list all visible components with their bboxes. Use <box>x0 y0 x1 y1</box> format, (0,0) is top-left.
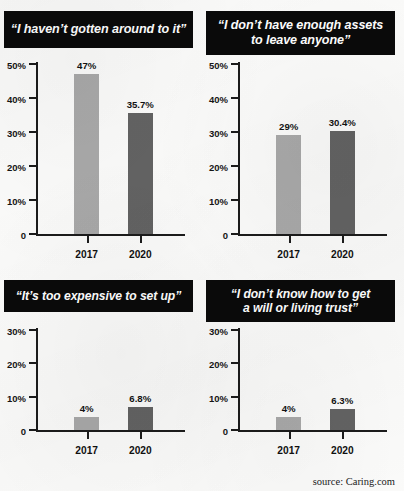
plot-area: 010%20%30%4%20176.8%2020 <box>36 332 185 432</box>
y-axis-tick-label: 40% <box>209 94 228 105</box>
y-axis-tick <box>29 329 36 331</box>
y-axis-tick-label: 50% <box>7 60 26 71</box>
y-axis-tick <box>29 396 36 398</box>
panel-title-line: to leave anyone” <box>218 33 383 48</box>
x-axis-tick <box>140 432 142 439</box>
y-axis-tick <box>231 63 238 65</box>
bar-2020 <box>128 407 153 430</box>
bar-chart: 010%20%30%4%20176.8%2020 <box>0 324 202 464</box>
y-axis-tick-label: 20% <box>209 359 228 370</box>
x-axis-tick <box>289 432 291 439</box>
panel-too-expensive: “It’s too expensive to set up” 010%20%30… <box>0 272 202 466</box>
panel-title-line: “It’s too expensive to set up” <box>16 289 181 303</box>
x-axis-label-2017: 2017 <box>277 249 300 260</box>
bar-chart: 010%20%30%40%50%47%201735.7%2020 <box>0 58 202 268</box>
panel-havent-gotten-around: “I haven’t gotten around to it” 010%20%3… <box>0 0 202 272</box>
bar-value-label: 6.3% <box>331 395 353 406</box>
y-axis <box>36 328 38 432</box>
bar-2017 <box>74 417 99 430</box>
y-axis-tick <box>231 362 238 364</box>
panel-title-line: a will or living trust” <box>231 301 370 315</box>
y-axis <box>36 62 38 236</box>
y-axis-tick <box>29 233 36 235</box>
x-axis-label-2017: 2017 <box>75 445 98 456</box>
y-axis-tick-label: 30% <box>209 128 228 139</box>
y-axis-tick <box>231 165 238 167</box>
panel-title-line: “I haven’t gotten around to it” <box>11 22 187 37</box>
x-axis <box>36 430 185 432</box>
bar-value-label: 30.4% <box>329 117 356 128</box>
panel-title-banner: “I don’t have enough assets to leave any… <box>206 11 395 55</box>
x-axis-label-2020: 2020 <box>331 249 354 260</box>
y-axis-tick-label: 20% <box>209 162 228 173</box>
y-axis-tick-label: 30% <box>7 326 26 337</box>
y-axis-tick <box>29 199 36 201</box>
x-axis <box>238 430 387 432</box>
y-axis-tick-label: 10% <box>7 196 26 207</box>
y-axis <box>238 328 240 432</box>
y-axis-tick-label: 0 <box>21 230 26 241</box>
bar-2017 <box>276 135 301 234</box>
y-axis-tick <box>231 396 238 398</box>
panel-title-line: “I don’t know how to get <box>231 287 370 301</box>
panel-dont-know-how: “I don’t know how to get a will or livin… <box>202 272 404 466</box>
bar-2017 <box>74 74 99 234</box>
bar-value-label: 4% <box>80 403 94 414</box>
y-axis-tick-label: 30% <box>209 326 228 337</box>
x-axis-tick <box>342 236 344 243</box>
bar-2020 <box>330 131 355 234</box>
y-axis-tick-label: 10% <box>7 393 26 404</box>
x-axis-label-2017: 2017 <box>75 249 98 260</box>
x-axis-tick <box>87 432 89 439</box>
x-axis-label-2020: 2020 <box>129 249 152 260</box>
x-axis-tick <box>289 236 291 243</box>
y-axis-tick <box>231 329 238 331</box>
y-axis-tick-label: 30% <box>7 128 26 139</box>
plot-area: 010%20%30%40%50%29%201730.4%2020 <box>238 66 387 236</box>
bar-value-label: 6.8% <box>129 393 151 404</box>
bar-value-label: 29% <box>279 121 298 132</box>
y-axis-tick <box>231 131 238 133</box>
source-attribution: source: Caring.com <box>313 476 395 487</box>
y-axis-tick <box>29 97 36 99</box>
y-axis-tick-label: 0 <box>223 230 228 241</box>
x-axis-label-2020: 2020 <box>129 445 152 456</box>
y-axis-tick-label: 20% <box>7 359 26 370</box>
bar-chart: 010%20%30%40%50%29%201730.4%2020 <box>202 58 404 268</box>
y-axis-tick-label: 20% <box>7 162 26 173</box>
y-axis-tick <box>231 97 238 99</box>
bar-value-label: 47% <box>77 60 96 71</box>
y-axis <box>238 62 240 236</box>
plot-area: 010%20%30%4%20176.3%2020 <box>238 332 387 432</box>
x-axis-tick <box>342 432 344 439</box>
bar-value-label: 4% <box>282 403 296 414</box>
x-axis-tick <box>87 236 89 243</box>
y-axis-tick <box>29 165 36 167</box>
y-axis-tick-label: 0 <box>223 426 228 437</box>
y-axis-tick-label: 0 <box>21 426 26 437</box>
bar-chart: 010%20%30%4%20176.3%2020 <box>202 324 404 464</box>
bar-value-label: 35.7% <box>127 99 154 110</box>
x-axis <box>36 234 185 236</box>
bar-2020 <box>128 113 153 234</box>
x-axis-label-2020: 2020 <box>331 445 354 456</box>
panel-title-banner: “I haven’t gotten around to it” <box>4 11 193 48</box>
plot-area: 010%20%30%40%50%47%201735.7%2020 <box>36 66 185 236</box>
y-axis-tick-label: 10% <box>209 393 228 404</box>
panel-title-banner: “I don’t know how to get a will or livin… <box>206 280 395 322</box>
y-axis-tick <box>29 362 36 364</box>
y-axis-tick-label: 40% <box>7 94 26 105</box>
y-axis-tick <box>29 429 36 431</box>
y-axis-tick <box>231 429 238 431</box>
panel-title-banner: “It’s too expensive to set up” <box>4 280 193 312</box>
bar-2017 <box>276 417 301 430</box>
y-axis-tick <box>231 199 238 201</box>
chart-grid: “I haven’t gotten around to it” 010%20%3… <box>0 0 404 491</box>
y-axis-tick <box>29 131 36 133</box>
y-axis-tick-label: 10% <box>209 196 228 207</box>
bar-2020 <box>330 409 355 430</box>
y-axis-tick-label: 50% <box>209 60 228 71</box>
x-axis-label-2017: 2017 <box>277 445 300 456</box>
panel-title-line: “I don’t have enough assets <box>218 18 383 33</box>
panel-not-enough-assets: “I don’t have enough assets to leave any… <box>202 0 404 272</box>
